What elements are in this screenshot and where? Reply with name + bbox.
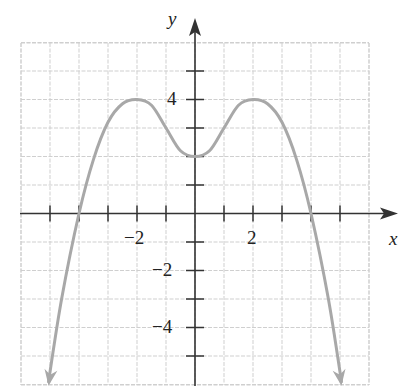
axes bbox=[20, 18, 398, 386]
function-graph bbox=[0, 0, 415, 392]
y-tick-label-neg2: −2 bbox=[152, 259, 172, 281]
y-tick-label-neg4: −4 bbox=[152, 316, 172, 338]
y-tick-label-4: 4 bbox=[167, 88, 177, 110]
x-tick-label-2: 2 bbox=[247, 227, 257, 249]
x-tick-label-neg2: −2 bbox=[124, 227, 144, 249]
x-axis-label: x bbox=[389, 228, 397, 250]
y-axis-label: y bbox=[168, 8, 176, 30]
